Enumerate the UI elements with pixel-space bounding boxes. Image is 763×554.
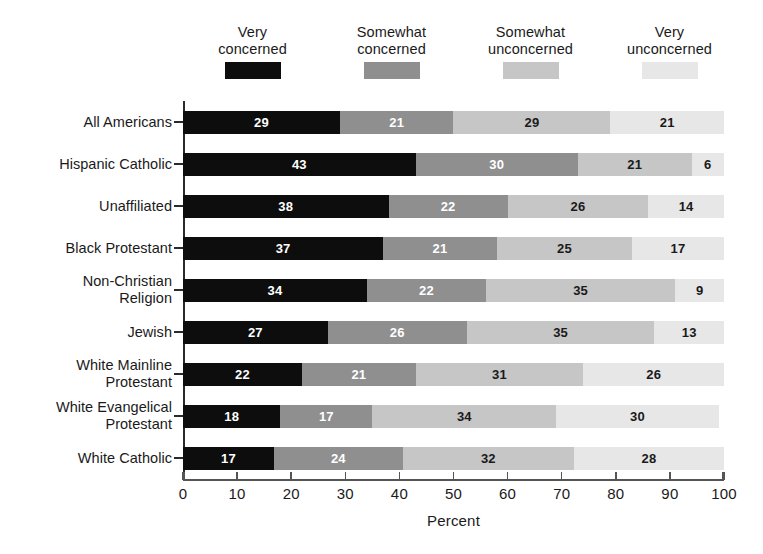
y-axis-label-row: White Catholic bbox=[0, 447, 172, 470]
bar-segment-value: 31 bbox=[492, 367, 507, 382]
legend-swatch-icon bbox=[642, 62, 698, 79]
bar-segment: 32 bbox=[403, 447, 574, 470]
legend-swatch-icon bbox=[364, 62, 420, 79]
bar-segment-value: 9 bbox=[696, 283, 703, 298]
y-axis-category-label: White Catholic bbox=[0, 450, 172, 467]
bar-segment-value: 22 bbox=[441, 199, 456, 214]
x-axis-tick bbox=[507, 472, 509, 480]
y-axis-label-row: All Americans bbox=[0, 111, 172, 134]
bar-segment: 30 bbox=[416, 153, 578, 176]
bar-segment-value: 26 bbox=[390, 325, 405, 340]
x-axis-tick-label: 40 bbox=[391, 485, 408, 502]
bar-segment-value: 26 bbox=[570, 199, 585, 214]
y-axis-labels: All AmericansHispanic CatholicUnaffiliat… bbox=[0, 0, 174, 554]
bar-segment: 30 bbox=[556, 405, 718, 428]
bar-row: 29212921 bbox=[183, 111, 724, 134]
y-axis-tick bbox=[174, 205, 183, 207]
bar-segment-value: 22 bbox=[419, 283, 434, 298]
bar-segment: 9 bbox=[675, 279, 724, 302]
legend-item-label: Somewhat concerned bbox=[357, 24, 426, 57]
x-axis-title: Percent bbox=[183, 512, 724, 529]
bar-segment: 34 bbox=[183, 279, 367, 302]
x-axis-tick-label: 50 bbox=[445, 485, 462, 502]
y-axis-label-row: White Evangelical Protestant bbox=[0, 405, 172, 428]
bar-segment: 17 bbox=[632, 237, 724, 260]
x-axis-tick bbox=[182, 472, 184, 480]
legend-swatch-icon bbox=[503, 62, 559, 79]
y-axis-tick bbox=[174, 121, 183, 123]
bar-segment-value: 27 bbox=[248, 325, 263, 340]
bar-segment: 29 bbox=[183, 111, 340, 134]
bar-segment-value: 21 bbox=[627, 157, 642, 172]
y-axis-category-label: White Evangelical Protestant bbox=[0, 399, 172, 433]
x-axis-tick bbox=[345, 472, 347, 480]
bar-segment: 24 bbox=[274, 447, 403, 470]
y-axis-category-label: Non-Christian Religion bbox=[0, 273, 172, 307]
y-axis-tick bbox=[174, 331, 183, 333]
bar-row: 37212517 bbox=[183, 237, 724, 260]
bar-segment-value: 30 bbox=[489, 157, 504, 172]
y-axis-category-label: Jewish bbox=[0, 324, 172, 341]
y-axis-tick bbox=[174, 163, 183, 165]
plot-area: 2921292143302163822261437212517342235927… bbox=[183, 101, 724, 479]
bar-segment: 26 bbox=[583, 363, 724, 386]
bar-segment: 21 bbox=[340, 111, 454, 134]
bar-row: 4330216 bbox=[183, 153, 724, 176]
bar-segment: 21 bbox=[578, 153, 692, 176]
bar-segment: 34 bbox=[372, 405, 556, 428]
bar-segment: 14 bbox=[648, 195, 724, 218]
bar-segment-value: 17 bbox=[319, 409, 334, 424]
legend-swatch-icon bbox=[225, 62, 281, 79]
bar-row: 27263513 bbox=[183, 321, 724, 344]
bar-segment-value: 35 bbox=[573, 283, 588, 298]
bar-segment-value: 29 bbox=[254, 115, 269, 130]
y-axis-label-row: Unaffiliated bbox=[0, 195, 172, 218]
legend-item-0: Very concerned bbox=[183, 24, 322, 79]
y-axis-tick bbox=[174, 247, 183, 249]
x-axis-tick-label: 10 bbox=[229, 485, 246, 502]
y-axis-tick bbox=[174, 415, 183, 417]
bar-segment-value: 37 bbox=[276, 241, 291, 256]
y-axis-category-label: All Americans bbox=[0, 114, 172, 131]
bar-segment-value: 32 bbox=[481, 451, 496, 466]
x-axis-tick bbox=[723, 472, 725, 480]
x-axis-tick-label: 90 bbox=[661, 485, 678, 502]
bar-segment: 22 bbox=[367, 279, 486, 302]
bar-segment: 35 bbox=[467, 321, 654, 344]
bar-segment-value: 21 bbox=[389, 115, 404, 130]
bar-row: 18173430 bbox=[183, 405, 724, 428]
y-axis-category-label: Hispanic Catholic bbox=[0, 156, 172, 173]
bar-segment: 28 bbox=[574, 447, 724, 470]
legend-item-label: Very concerned bbox=[218, 24, 287, 57]
bar-segment-value: 25 bbox=[557, 241, 572, 256]
legend-item-3: Very unconcerned bbox=[600, 24, 739, 79]
x-axis-tick bbox=[453, 472, 455, 480]
bar-segment-value: 28 bbox=[642, 451, 657, 466]
bar-segment-value: 29 bbox=[524, 115, 539, 130]
bar-segment: 26 bbox=[508, 195, 649, 218]
x-axis-tick-label: 60 bbox=[499, 485, 516, 502]
y-axis-label-row: Jewish bbox=[0, 321, 172, 344]
bar-segment: 22 bbox=[389, 195, 508, 218]
bar-segment-value: 17 bbox=[221, 451, 236, 466]
y-axis-tick bbox=[174, 373, 183, 375]
y-axis-tick bbox=[174, 289, 183, 291]
y-axis-label-row: Black Protestant bbox=[0, 237, 172, 260]
bar-segment-value: 22 bbox=[235, 367, 250, 382]
bar-segment: 29 bbox=[453, 111, 610, 134]
bar-segment: 37 bbox=[183, 237, 383, 260]
bar-segment-value: 21 bbox=[660, 115, 675, 130]
stacked-bar-chart: Very concernedSomewhat concernedSomewhat… bbox=[0, 0, 763, 554]
x-axis-tick-label: 100 bbox=[711, 485, 737, 502]
bar-row: 17243228 bbox=[183, 447, 724, 470]
x-axis-tick bbox=[290, 472, 292, 480]
x-axis-tick bbox=[561, 472, 563, 480]
x-axis-tick-label: 80 bbox=[607, 485, 624, 502]
bar-segment-value: 30 bbox=[630, 409, 645, 424]
chart-legend: Very concernedSomewhat concernedSomewhat… bbox=[183, 24, 739, 96]
bar-segment: 21 bbox=[610, 111, 724, 134]
bar-segment: 17 bbox=[280, 405, 372, 428]
bar-segment: 43 bbox=[183, 153, 416, 176]
y-axis-tick bbox=[174, 457, 183, 459]
bar-segment: 31 bbox=[416, 363, 584, 386]
